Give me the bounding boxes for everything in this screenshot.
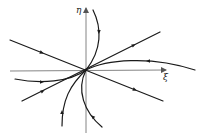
xi-axis-label: ξ <box>163 72 169 82</box>
direction-arrows <box>39 30 150 119</box>
trajectory-curve-right <box>86 61 195 70</box>
arrow-icon <box>97 30 101 34</box>
trajectories <box>10 10 195 127</box>
phase-portrait-diagram: η ξ <box>0 0 207 139</box>
eta-axis-label: η <box>76 5 82 15</box>
arrow-icon <box>39 50 44 55</box>
arrow-icon <box>131 43 136 48</box>
arrow-icon <box>146 59 150 63</box>
trajectory-curve-left <box>15 70 86 82</box>
arrow-icon <box>40 80 44 84</box>
trajectory-curve-bottom <box>82 70 102 127</box>
trajectory-curve-top <box>86 10 99 70</box>
arrow-icon <box>132 87 137 92</box>
